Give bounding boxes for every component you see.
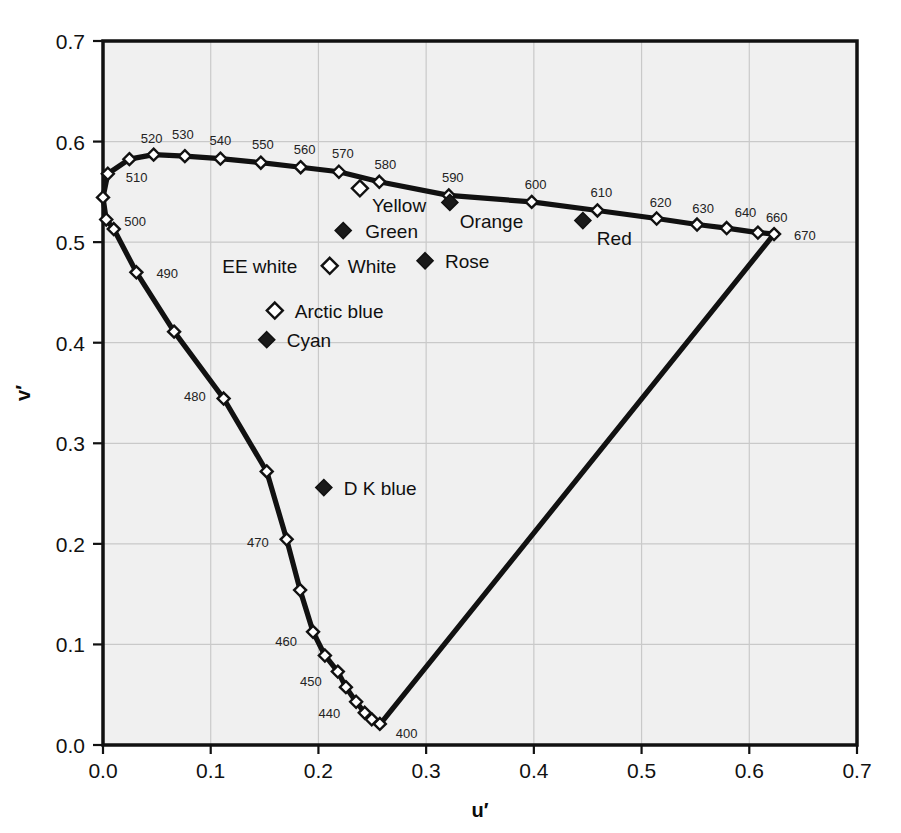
color-point-label-rose: Rose — [445, 251, 489, 272]
wavelength-label-640: 640 — [735, 205, 757, 220]
wavelength-label-660: 660 — [766, 210, 788, 225]
annotation-ee-white: EE white — [222, 256, 297, 277]
wavelength-label-580: 580 — [374, 157, 396, 172]
wavelength-label-610: 610 — [591, 185, 613, 200]
wavelength-label-670: 670 — [794, 228, 816, 243]
wavelength-label-540: 540 — [210, 133, 232, 148]
wavelength-label-400: 400 — [396, 726, 418, 741]
wavelength-label-520: 520 — [141, 131, 163, 146]
color-point-label-cyan: Cyan — [287, 330, 331, 351]
y-axis-title: v′ — [12, 385, 34, 401]
x-tick-label: 0.7 — [842, 759, 871, 782]
wavelength-label-470: 470 — [247, 535, 269, 550]
wavelength-label-600: 600 — [525, 177, 547, 192]
x-tick-label: 0.3 — [412, 759, 441, 782]
color-point-label-green: Green — [365, 221, 418, 242]
x-tick-label: 0.2 — [304, 759, 333, 782]
wavelength-label-630: 630 — [692, 201, 714, 216]
color-point-label-yellow: Yellow — [372, 195, 427, 216]
y-tick-label: 0.4 — [56, 332, 86, 355]
wavelength-label-550: 550 — [252, 137, 274, 152]
y-tick-label: 0.1 — [56, 633, 85, 656]
wavelength-label-440: 440 — [318, 706, 340, 721]
cie-uv-chromaticity-chart: 0.00.10.20.30.40.50.60.7 0.00.10.20.30.4… — [0, 0, 901, 833]
x-tick-label: 0.1 — [196, 759, 225, 782]
wavelength-label-570: 570 — [332, 146, 354, 161]
x-tick-label: 0.6 — [735, 759, 764, 782]
wavelength-label-460: 460 — [275, 634, 297, 649]
y-tick-label: 0.2 — [56, 533, 85, 556]
color-point-label-arctic-blue: Arctic blue — [295, 301, 384, 322]
color-point-label-white: White — [348, 256, 397, 277]
color-point-label-d-k-blue: D K blue — [344, 478, 417, 499]
y-tick-label: 0.0 — [56, 734, 85, 757]
wavelength-label-590: 590 — [442, 170, 464, 185]
wavelength-label-480: 480 — [184, 389, 206, 404]
wavelength-label-510: 510 — [126, 170, 148, 185]
chromaticity-diagram-figure: 0.00.10.20.30.40.50.60.7 0.00.10.20.30.4… — [0, 0, 901, 833]
wavelength-label-490: 490 — [156, 266, 178, 281]
annotation-labels: EE white — [222, 256, 297, 277]
y-tick-label: 0.3 — [56, 432, 85, 455]
x-tick-label: 0.5 — [627, 759, 656, 782]
wavelength-label-530: 530 — [172, 127, 194, 142]
y-tick-label: 0.5 — [56, 231, 85, 254]
x-tick-label: 0.0 — [88, 759, 117, 782]
x-tick-label: 0.4 — [519, 759, 549, 782]
color-point-label-orange: Orange — [460, 211, 523, 232]
wavelength-label-500: 500 — [124, 214, 146, 229]
color-point-label-red: Red — [597, 228, 632, 249]
y-tick-label: 0.7 — [56, 30, 85, 53]
wavelength-label-560: 560 — [294, 142, 316, 157]
wavelength-label-620: 620 — [650, 195, 672, 210]
wavelength-label-450: 450 — [300, 674, 322, 689]
x-axis-title: u′ — [471, 799, 488, 821]
y-tick-label: 0.6 — [56, 131, 85, 154]
